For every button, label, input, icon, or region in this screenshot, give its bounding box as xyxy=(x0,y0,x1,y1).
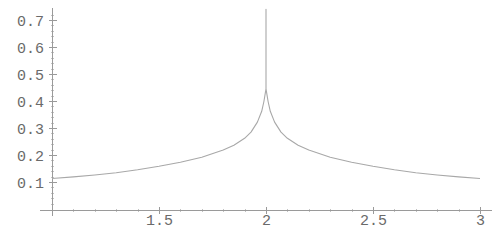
y-tick-label: 0.2 xyxy=(17,149,44,166)
x-tick-label: 2 xyxy=(262,213,271,230)
y-tick-label: 0.6 xyxy=(17,41,44,58)
y-tick-label: 0.4 xyxy=(17,95,44,112)
x-tick-label: 2.5 xyxy=(360,213,387,230)
y-tick-label: 0.3 xyxy=(17,122,44,139)
y-tick-label: 0.1 xyxy=(17,176,44,193)
line-chart: 1.522.530.10.20.30.40.50.60.7 xyxy=(0,0,504,241)
x-tick-label: 1.5 xyxy=(146,213,173,230)
data-line xyxy=(52,9,480,178)
y-tick-label: 0.5 xyxy=(17,68,44,85)
x-tick-label: 3 xyxy=(476,213,485,230)
y-tick-label: 0.7 xyxy=(17,14,44,31)
tick-labels: 1.522.530.10.20.30.40.50.60.7 xyxy=(17,14,485,231)
data-series xyxy=(52,9,480,178)
tick-marks xyxy=(49,16,481,215)
